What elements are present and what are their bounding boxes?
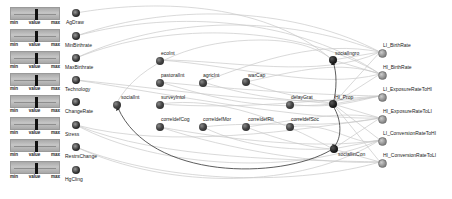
slider-thumb[interactable] bbox=[35, 119, 38, 130]
slider-thumb[interactable] bbox=[35, 53, 38, 64]
slider-min-label: min bbox=[10, 64, 18, 70]
node-correldefcog[interactable] bbox=[156, 123, 164, 131]
node-label-delaygrat: delayGrat bbox=[291, 94, 313, 100]
slider-value-label: value bbox=[29, 64, 41, 70]
node-label-restrschange: RestrsChange bbox=[65, 153, 97, 159]
node-label-correldefrit: correldefRit bbox=[248, 116, 274, 122]
slider-value-label: value bbox=[29, 20, 41, 26]
node-label-warcap: warCap bbox=[248, 72, 265, 78]
node-technology[interactable] bbox=[72, 76, 80, 84]
node-label-hi-conversionratetoli: HI_ConversionRateToLI bbox=[383, 152, 436, 158]
slider-thumb[interactable] bbox=[35, 97, 38, 108]
slider-max-label: max bbox=[51, 152, 60, 158]
node-correldefmor[interactable] bbox=[199, 123, 207, 131]
slider-maxbirthrate[interactable]: minvaluemax bbox=[10, 51, 60, 69]
node-label-surveyintol: surveyIntol bbox=[161, 94, 185, 100]
slider-changerate[interactable]: minvaluemax bbox=[10, 95, 60, 113]
node-socialincon[interactable] bbox=[330, 145, 338, 153]
slider-minbirthrate[interactable]: minvaluemax bbox=[10, 29, 60, 47]
slider-thumb[interactable] bbox=[35, 75, 38, 86]
slider-thumb[interactable] bbox=[35, 9, 38, 20]
slider-value-label: value bbox=[29, 42, 41, 48]
slider-value-label: value bbox=[29, 86, 41, 92]
node-socialingro[interactable] bbox=[329, 56, 337, 64]
slider-max-label: max bbox=[51, 130, 60, 136]
node-label-correldefcog: correldefCog bbox=[161, 116, 190, 122]
node-label-li-birthrate: LI_BirthRate bbox=[383, 42, 411, 48]
node-pastoralint[interactable] bbox=[156, 79, 164, 87]
slider-track[interactable] bbox=[10, 161, 60, 174]
slider-track[interactable] bbox=[10, 117, 60, 130]
slider-min-label: min bbox=[10, 42, 18, 48]
node-stress[interactable] bbox=[72, 121, 80, 129]
slider-thumb[interactable] bbox=[35, 141, 38, 152]
slider-restrschange[interactable]: minvaluemax bbox=[10, 139, 60, 157]
slider-hgcling[interactable]: minvaluemax bbox=[10, 161, 60, 179]
node-agricint[interactable] bbox=[199, 79, 207, 87]
slider-agdraw[interactable]: minvaluemax bbox=[10, 7, 60, 25]
node-label-agricint: agricInt bbox=[203, 72, 219, 78]
node-label-hi-exposureratetoli: HI_ExposureRateToLI bbox=[383, 108, 432, 114]
node-label-socialint: socialInt bbox=[121, 94, 139, 100]
node-label-hi-birthrate: HI_BirthRate bbox=[383, 64, 412, 70]
node-changerate[interactable] bbox=[72, 98, 80, 106]
node-label-pastoralint: pastoralInt bbox=[161, 72, 184, 78]
node-agdraw[interactable] bbox=[72, 9, 80, 17]
slider-max-label: max bbox=[51, 86, 60, 92]
slider-track[interactable] bbox=[10, 95, 60, 108]
node-socialint[interactable] bbox=[113, 101, 121, 109]
slider-value-label: value bbox=[29, 174, 41, 180]
node-label-correldefmor: correldefMor bbox=[203, 116, 231, 122]
slider-value-label: value bbox=[29, 108, 41, 114]
node-label-socialingro: socialIngro bbox=[335, 50, 359, 56]
node-label-socialincon: socialIinCon bbox=[338, 151, 365, 157]
node-correldefsoc[interactable] bbox=[286, 123, 294, 131]
node-label-li-conversionratetohi: LI_ConversionRateToHI bbox=[383, 130, 436, 136]
slider-track[interactable] bbox=[10, 139, 60, 152]
node-label-hgcling: HgCling bbox=[65, 176, 83, 182]
slider-track[interactable] bbox=[10, 51, 60, 64]
node-label-technology: Technology bbox=[65, 86, 90, 92]
slider-min-label: min bbox=[10, 152, 18, 158]
node-surveyintol[interactable] bbox=[156, 101, 164, 109]
node-minbirthrate[interactable] bbox=[72, 32, 80, 40]
node-label-li-exposureratetohi: LI_ExposureRateToHI bbox=[383, 86, 432, 92]
node-hgcling[interactable] bbox=[72, 166, 80, 174]
node-warcap[interactable] bbox=[242, 78, 250, 86]
node-restrschange[interactable] bbox=[72, 143, 80, 151]
slider-thumb[interactable] bbox=[35, 31, 38, 42]
node-delaygrat[interactable] bbox=[286, 101, 294, 109]
slider-min-label: min bbox=[10, 130, 18, 136]
slider-max-label: max bbox=[51, 42, 60, 48]
slider-min-label: min bbox=[10, 174, 18, 180]
node-li-birthrate[interactable] bbox=[378, 49, 387, 58]
slider-min-label: min bbox=[10, 86, 18, 92]
slider-track[interactable] bbox=[10, 73, 60, 86]
slider-max-label: max bbox=[51, 64, 60, 70]
node-hi-conversionratetoli[interactable] bbox=[378, 159, 387, 168]
slider-stress[interactable]: minvaluemax bbox=[10, 117, 60, 135]
slider-value-label: value bbox=[29, 130, 41, 136]
slider-thumb[interactable] bbox=[35, 163, 38, 174]
node-hi-exposureratetoli[interactable] bbox=[378, 115, 387, 124]
node-ecoint[interactable] bbox=[156, 57, 164, 65]
node-label-agdraw: AgDraw bbox=[66, 19, 84, 25]
node-label-hi-prop: HI_Prop bbox=[335, 94, 353, 100]
node-label-stress: Stress bbox=[65, 131, 79, 137]
node-label-correldefsoc: correldefSoc bbox=[291, 116, 319, 122]
slider-value-label: value bbox=[29, 152, 41, 158]
node-li-conversionratetohi[interactable] bbox=[378, 137, 387, 146]
node-label-ecoint: ecoInt bbox=[161, 50, 175, 56]
slider-technology[interactable]: minvaluemax bbox=[10, 73, 60, 91]
node-li-exposureratetohi[interactable] bbox=[378, 93, 387, 102]
node-label-minbirthrate: MinBirthrate bbox=[65, 42, 92, 48]
node-maxbirthrate[interactable] bbox=[72, 54, 80, 62]
node-hi-prop[interactable] bbox=[329, 100, 337, 108]
node-label-maxbirthrate: MaxBirthrate bbox=[65, 64, 93, 70]
node-hi-birthrate[interactable] bbox=[378, 71, 387, 80]
node-correldefrit[interactable] bbox=[242, 123, 250, 131]
slider-track[interactable] bbox=[10, 7, 60, 20]
slider-max-label: max bbox=[51, 20, 60, 26]
slider-track[interactable] bbox=[10, 29, 60, 42]
slider-min-label: min bbox=[10, 20, 18, 26]
